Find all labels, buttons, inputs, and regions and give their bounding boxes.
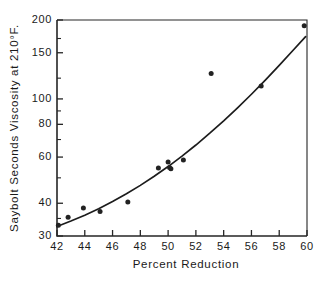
x-tick-label: 44 [78,240,91,252]
data-point [81,205,86,210]
x-tick-label: 56 [245,240,258,252]
x-tick-label: 48 [134,240,147,252]
data-point [181,157,186,162]
plot-box-top-right [57,20,307,236]
data-point [98,209,103,214]
x-tick-label: 58 [273,240,286,252]
y-tick-label: 100 [32,92,52,104]
x-tick-label: 60 [300,240,313,252]
y-tick-label: 60 [39,150,52,162]
data-point [166,159,171,164]
x-tick-label: 50 [161,240,174,252]
y-tick-label: 150 [32,46,52,58]
x-axis-title: Percent Reduction [133,258,240,270]
y-axis-ticks [57,20,63,236]
scatter-plot-svg: 30406080100150200 42444648505254565860 P… [0,0,321,288]
data-point [125,200,130,205]
data-point [209,71,214,76]
fitted-curve [57,37,306,227]
data-point [168,166,173,171]
data-points [56,23,307,227]
x-axis-ticks [57,230,307,236]
x-tick-label: 42 [50,240,63,252]
plot-frame [57,20,307,236]
data-point [56,223,61,228]
data-point [259,84,264,89]
x-tick-label: 46 [106,240,119,252]
x-axis-tick-labels: 42444648505254565860 [50,240,313,252]
data-point [302,23,307,28]
y-tick-label: 40 [39,196,52,208]
axes-lines [57,20,307,236]
chart-figure: 30406080100150200 42444648505254565860 P… [0,0,321,288]
x-tick-label: 52 [189,240,202,252]
data-point [66,215,71,220]
y-axis-tick-labels: 30406080100150200 [32,13,52,241]
y-tick-label: 80 [39,117,52,129]
y-axis-title: Saybolt Seconds Viscosity at 210°F. [8,24,20,232]
data-point [156,166,161,171]
x-tick-label: 54 [217,240,230,252]
y-tick-label: 200 [32,13,52,25]
